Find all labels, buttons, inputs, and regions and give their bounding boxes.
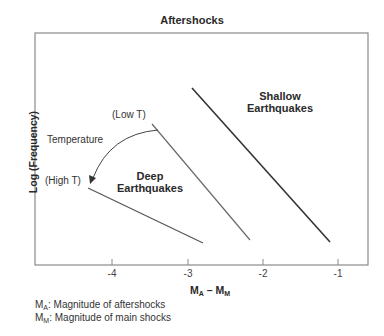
x-axis-label: MA – MM [170,284,250,297]
high-t-label: (High T) [45,175,81,186]
deep-earthquakes-label: DeepEarthquakes [110,170,190,194]
x-tick-label: -3 [173,268,203,279]
x-tick-label: -4 [97,268,127,279]
legend-note-ma: MA: Magnitude of aftershocks [35,299,165,311]
shallow-earthquakes-label: ShallowEarthquakes [240,90,320,114]
x-tick-label: -1 [323,268,353,279]
legend-note-mm: MM: Magnitude of main shocks [35,312,171,324]
low-t-label: (Low T) [112,109,146,120]
x-tick-label: -2 [248,268,278,279]
deep-high-t-line [88,188,203,243]
temperature-label: Temperature [47,134,103,145]
arrow-head-icon [89,175,96,184]
y-axis-label: Log (Frequency) [27,97,39,207]
x-tick-marks [112,259,338,265]
plot-frame [35,33,368,265]
